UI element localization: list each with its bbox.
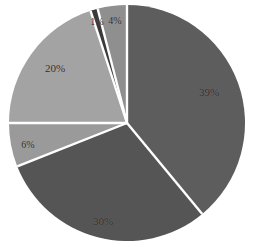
- pie-chart-canvas: [0, 0, 254, 247]
- pie-slice-label: 6%: [21, 140, 34, 150]
- pie-slice-label: 1%: [90, 17, 103, 27]
- pie-slice-label: 39%: [199, 87, 219, 98]
- pie-slice-label: 30%: [93, 216, 113, 227]
- pie-slices-group: [9, 5, 245, 241]
- pie-slice-label: 4%: [108, 16, 121, 26]
- pie-chart: 39%30%6%20%1%4%: [0, 0, 254, 247]
- pie-slice-label: 20%: [45, 63, 65, 74]
